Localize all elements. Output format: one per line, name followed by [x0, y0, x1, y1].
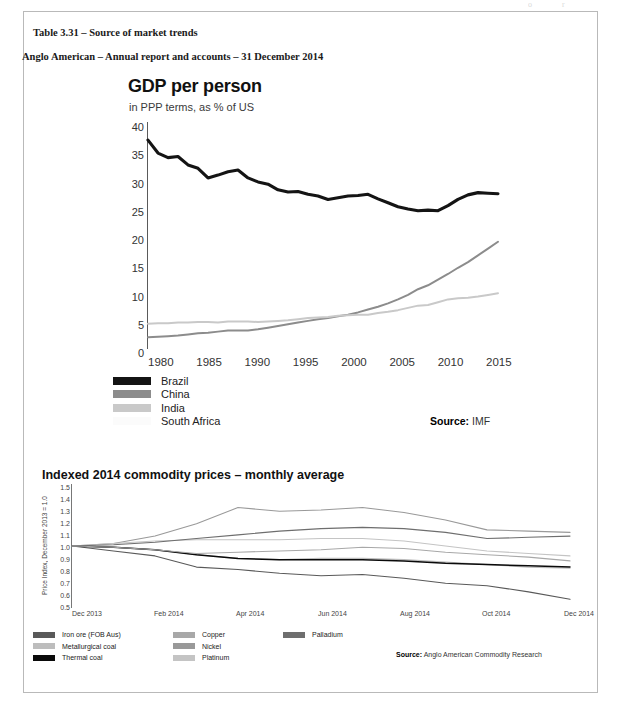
commodity-y-tick-label: 0.8 — [60, 568, 70, 575]
commodity-legend-label: Copper — [202, 631, 225, 638]
commodity-x-tick-label: Jun 2014 — [318, 610, 347, 617]
commodity-y-tick-label: 1.1 — [60, 532, 70, 539]
commodity-series-line — [72, 508, 570, 546]
commodity-plot-area — [72, 484, 570, 608]
gdp-legend-label: China — [161, 388, 190, 400]
commodity-legend-item: Iron ore (FOB Aus) — [33, 629, 121, 641]
commodity-x-tick-label: Feb 2014 — [154, 610, 184, 617]
commodity-legend-swatch — [33, 655, 55, 661]
commodity-legend-item: Metallurgical coal — [33, 641, 121, 653]
commodity-x-tick-label: Oct 2014 — [482, 610, 510, 617]
commodity-legend-item: Palladium — [283, 629, 343, 641]
gdp-y-tick-label: 15 — [132, 263, 144, 273]
commodity-y-tick-label: 1.3 — [60, 508, 70, 515]
gdp-source: Source: IMF — [430, 415, 490, 427]
gdp-x-tick-label: 2000 — [341, 356, 367, 368]
commodity-legend-label: Thermal coal — [62, 654, 102, 661]
commodity-x-tick-label: Dec 2013 — [72, 610, 102, 617]
gdp-x-tick-label: 1985 — [196, 356, 222, 368]
gdp-legend-item: India — [113, 401, 220, 415]
commodity-legend-item: Thermal coal — [33, 652, 121, 664]
gdp-legend-swatch — [113, 417, 151, 425]
gdp-legend-label: India — [161, 402, 185, 414]
commodity-y-tick-label: 0.7 — [60, 580, 70, 587]
gdp-source-value: IMF — [472, 415, 490, 427]
commodity-legend-column-1: Iron ore (FOB Aus)Metallurgical coalTher… — [33, 629, 121, 664]
gdp-x-tick-label: 1980 — [148, 356, 174, 368]
commodity-legend-label: Palladium — [312, 631, 343, 638]
gdp-legend-label: South Africa — [161, 415, 220, 427]
gdp-legend-item: South Africa — [113, 415, 220, 429]
commodity-y-tick-label: 1.0 — [60, 544, 70, 551]
commodity-source: Source: Anglo American Commodity Researc… — [396, 651, 542, 658]
table-caption: Table 3.31 – Source of market trends — [33, 27, 198, 38]
commodity-legend-label: Iron ore (FOB Aus) — [62, 631, 121, 638]
commodity-legend-label: Metallurgical coal — [62, 643, 116, 650]
gdp-x-tick-label: 1995 — [293, 356, 319, 368]
commodity-legend-swatch — [173, 655, 195, 661]
gdp-source-label: Source: — [430, 415, 469, 427]
gdp-y-axis-ticks: 0510152025303540 — [118, 115, 144, 355]
gdp-plot-area — [148, 122, 508, 348]
commodity-source-label: Source: — [396, 651, 422, 658]
gdp-y-tick-label: 25 — [132, 207, 144, 217]
commodity-legend-swatch — [173, 632, 195, 638]
commodity-series-line — [72, 539, 570, 556]
gdp-y-tick-label: 5 — [138, 320, 144, 330]
gdp-series-line — [148, 140, 498, 211]
gdp-chart-subtitle: in PPP terms, as % of US — [129, 101, 254, 113]
gdp-x-tick-label: 1990 — [245, 356, 271, 368]
commodity-legend-swatch — [283, 632, 305, 638]
commodity-legend-item: Copper — [173, 629, 229, 641]
commodity-legend-label: Nickel — [202, 643, 221, 650]
commodity-y-tick-label: 1.5 — [60, 484, 70, 491]
gdp-y-tick-label: 20 — [132, 235, 144, 245]
page-top-faint-marks: o r — [528, 0, 598, 11]
commodity-legend-column-3: Palladium — [283, 629, 343, 641]
gdp-legend-item: China — [113, 388, 220, 402]
commodity-legend-swatch — [33, 643, 55, 649]
commodity-y-tick-label: 1.4 — [60, 496, 70, 503]
gdp-y-tick-label: 10 — [132, 292, 144, 302]
gdp-x-tick-label: 2015 — [486, 356, 512, 368]
commodity-legend-item: Nickel — [173, 641, 229, 653]
gdp-y-tick-label: 40 — [132, 122, 144, 132]
gdp-chart-title: GDP per person — [128, 76, 262, 97]
gdp-legend-swatch — [113, 377, 151, 385]
commodity-legend-column-2: CopperNickelPlatinum — [173, 629, 229, 664]
commodity-y-axis-label: Price Index, December 2013 = 1.0 — [38, 487, 50, 605]
gdp-x-tick-label: 2010 — [438, 356, 464, 368]
gdp-legend: BrazilChinaIndiaSouth Africa — [113, 374, 220, 428]
gdp-x-tick-label: 2005 — [389, 356, 415, 368]
commodity-chart-title: Indexed 2014 commodity prices – monthly … — [42, 468, 344, 482]
commodity-legend-swatch — [33, 632, 55, 638]
commodity-y-tick-label: 0.9 — [60, 556, 70, 563]
commodity-legend-label: Platinum — [202, 654, 229, 661]
commodity-legend-swatch — [173, 643, 195, 649]
commodity-y-tick-label: 0.6 — [60, 592, 70, 599]
gdp-y-tick-label: 30 — [132, 179, 144, 189]
gdp-y-tick-label: 35 — [132, 150, 144, 160]
commodity-y-axis-ticks: 0.50.60.70.80.91.01.11.21.31.41.5 — [52, 481, 70, 611]
gdp-x-axis-ticks: 19801985199019952000200520102015 — [138, 356, 528, 372]
commodity-legend-item: Platinum — [173, 652, 229, 664]
commodity-x-tick-label: Apr 2014 — [236, 610, 264, 617]
commodity-x-tick-label: Aug 2014 — [400, 610, 430, 617]
commodity-x-axis-ticks: Dec 2013Feb 2014Apr 2014Jun 2014Aug 2014… — [60, 610, 580, 622]
report-caption: Anglo American – Annual report and accou… — [22, 51, 323, 62]
commodity-x-tick-label: Dec 2014 — [564, 610, 594, 617]
commodity-series-line — [72, 546, 570, 599]
commodity-y-tick-label: 1.2 — [60, 520, 70, 527]
gdp-legend-label: Brazil — [161, 375, 189, 387]
gdp-legend-swatch — [113, 390, 151, 398]
gdp-legend-swatch — [113, 404, 151, 412]
gdp-legend-item: Brazil — [113, 374, 220, 388]
commodity-source-value: Anglo American Commodity Research — [424, 651, 542, 658]
